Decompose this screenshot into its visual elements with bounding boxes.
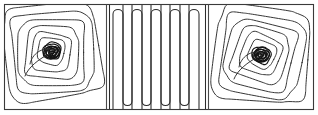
contour-plot-canvas: [0, 0, 318, 115]
contour-figure: [0, 0, 318, 115]
